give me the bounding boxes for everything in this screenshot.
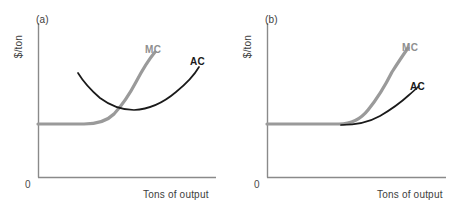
mc-curve-label-b: MC [402, 42, 418, 53]
ac-curve-label-a: AC [190, 56, 205, 67]
chart-panel-a: (a) $/ton Tons of output 0 MC AC [0, 0, 229, 211]
y-axis-label-b: $/ton [242, 29, 253, 65]
panel-a-plot [0, 0, 229, 211]
panel-b-plot [229, 0, 458, 211]
origin-label-a: 0 [25, 179, 31, 190]
ac-curve-a [78, 67, 199, 110]
x-axis-label-a: Tons of output [143, 189, 209, 200]
panel-label-a: (a) [36, 14, 49, 25]
ac-curve-label-b: AC [410, 81, 425, 92]
y-axis-label-a: $/ton [13, 29, 24, 65]
x-axis-label-b: Tons of output [377, 189, 443, 200]
mc-curve-label-a: MC [145, 44, 161, 55]
origin-label-b: 0 [254, 179, 260, 190]
cost-curves-figure: (a) $/ton Tons of output 0 MC AC (b) $/t… [0, 0, 458, 211]
chart-panel-b: (b) $/ton Tons of output 0 MC AC [229, 0, 458, 211]
mc-curve-a [38, 52, 155, 124]
panel-label-b: (b) [265, 14, 278, 25]
